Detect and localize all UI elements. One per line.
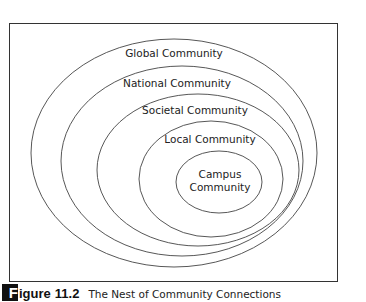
label-global-community: Global Community bbox=[125, 47, 223, 59]
ring-global bbox=[31, 39, 317, 267]
label-national-community: National Community bbox=[123, 77, 231, 89]
caption-label: igure bbox=[19, 287, 51, 301]
figure-caption: F igure 11.2 The Nest of Community Conne… bbox=[2, 283, 281, 301]
nested-community-diagram: Global Community National Community Soci… bbox=[0, 0, 366, 302]
caption-title: The Nest of Community Connections bbox=[88, 287, 281, 301]
label-campus: Campus bbox=[199, 168, 242, 180]
label-societal-community: Societal Community bbox=[142, 104, 248, 116]
label-local-community: Local Community bbox=[164, 133, 255, 145]
caption-number: 11.2 bbox=[55, 287, 80, 301]
label-community: Community bbox=[190, 181, 251, 193]
caption-initial-block: F bbox=[2, 284, 18, 301]
